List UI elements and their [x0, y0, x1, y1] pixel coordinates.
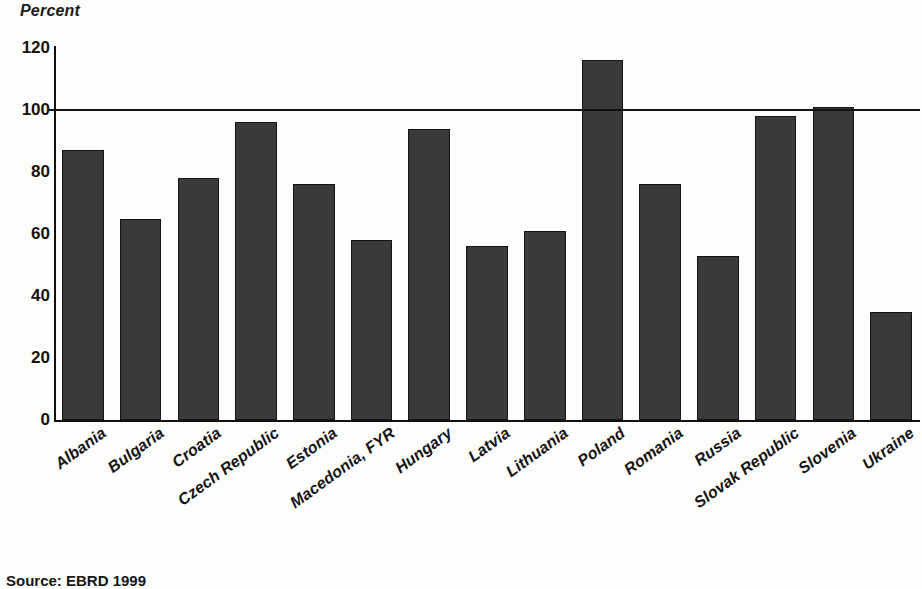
x-tick-label: Latvia: [465, 424, 513, 466]
bar: [524, 231, 566, 420]
x-tick-label: Lithuania: [502, 424, 571, 481]
bar: [178, 178, 220, 420]
bar: [351, 240, 393, 420]
bar: [813, 107, 855, 420]
x-tick-label: Ukraine: [859, 424, 918, 473]
x-tick-label: Hungary: [392, 424, 456, 477]
x-tick-label: Macedonia, FYR: [286, 424, 398, 512]
bar: [755, 116, 797, 420]
reference-line-100: [48, 109, 920, 111]
bar: [639, 184, 681, 420]
y-tick-label: 60: [4, 224, 50, 244]
bar: [870, 312, 912, 421]
bar: [466, 246, 508, 420]
x-tick-label: Slovak Republic: [690, 424, 802, 512]
bar: [293, 184, 335, 420]
x-tick-label: Bulgaria: [104, 424, 167, 477]
x-axis-line: [54, 420, 920, 422]
bar: [235, 122, 277, 420]
y-tick-label: 120: [4, 38, 50, 58]
source-note: Source: EBRD 1999: [6, 572, 146, 589]
plot-area: [54, 48, 920, 420]
x-tick-label: Czech Republic: [175, 424, 283, 509]
y-axis-tick-labels: 020406080100120: [0, 0, 50, 589]
y-tick-label: 80: [4, 162, 50, 182]
x-tick-label: Romania: [621, 424, 687, 479]
y-tick-label: 40: [4, 286, 50, 306]
bar: [62, 150, 104, 420]
bar: [582, 60, 624, 420]
bar: [120, 219, 162, 421]
x-tick-label: Albania: [52, 424, 110, 473]
bar: [408, 129, 450, 420]
bar: [697, 256, 739, 420]
y-tick-label: 0: [4, 410, 50, 430]
y-tick-label: 20: [4, 348, 50, 368]
x-tick-label: Slovenia: [796, 424, 860, 478]
x-axis-category-labels: AlbaniaBulgariaCroatiaCzech RepublicEsto…: [54, 424, 920, 564]
chart-figure: Percent 020406080100120 AlbaniaBulgariaC…: [0, 0, 922, 589]
y-tick-label: 100: [4, 100, 50, 120]
